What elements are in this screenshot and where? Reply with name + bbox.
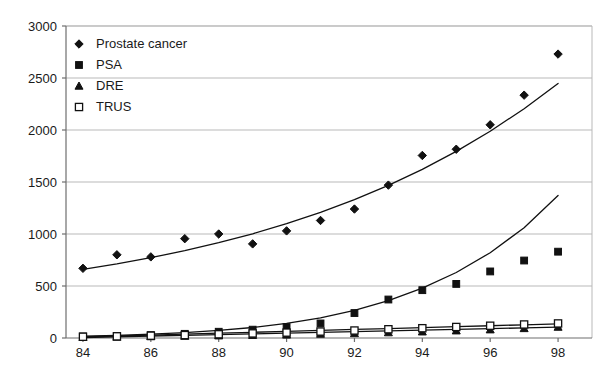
data-point-trus xyxy=(215,331,222,338)
data-point-trus xyxy=(181,331,188,338)
x-tick-label: 86 xyxy=(144,345,158,360)
y-tick-label: 1000 xyxy=(28,227,57,242)
legend-label: Prostate cancer xyxy=(96,36,188,51)
x-tick-label: 90 xyxy=(279,345,293,360)
data-point-trus xyxy=(147,332,154,339)
data-point-trus xyxy=(554,320,561,327)
y-tick-label: 1500 xyxy=(28,175,57,190)
data-point-psa xyxy=(487,268,494,275)
data-point-psa xyxy=(419,287,426,294)
data-point-psa xyxy=(385,296,392,303)
data-point-trus xyxy=(351,327,358,334)
legend-marker-filled-square xyxy=(76,62,83,69)
y-tick-label: 2500 xyxy=(28,71,57,86)
x-tick-label: 84 xyxy=(76,345,90,360)
y-tick-label: 500 xyxy=(35,279,57,294)
data-point-trus xyxy=(113,333,120,340)
legend-label: TRUS xyxy=(96,99,132,114)
data-point-psa xyxy=(521,257,528,264)
data-point-trus xyxy=(385,326,392,333)
chart-container: 050010001500200025003000 848688909294969… xyxy=(0,0,616,377)
data-point-trus xyxy=(453,323,460,330)
legend-label: DRE xyxy=(96,78,124,93)
x-tick-label: 88 xyxy=(211,345,225,360)
data-point-psa xyxy=(317,320,324,327)
legend-marker-open-square xyxy=(75,103,82,110)
data-point-trus xyxy=(521,321,528,328)
data-point-trus xyxy=(283,329,290,336)
data-point-psa xyxy=(555,248,562,255)
data-point-trus xyxy=(487,322,494,329)
scatter-chart: 050010001500200025003000 848688909294969… xyxy=(0,0,616,377)
x-tick-label: 96 xyxy=(483,345,497,360)
legend-label: PSA xyxy=(96,57,122,72)
x-tick-label: 94 xyxy=(415,345,429,360)
data-point-psa xyxy=(453,281,460,288)
y-tick-label: 0 xyxy=(50,331,57,346)
y-tick-label: 3000 xyxy=(28,19,57,34)
x-tick-label: 98 xyxy=(551,345,565,360)
data-point-trus xyxy=(249,330,256,337)
data-point-psa xyxy=(351,310,358,317)
y-tick-label: 2000 xyxy=(28,123,57,138)
data-point-trus xyxy=(79,333,86,340)
data-point-trus xyxy=(419,325,426,332)
x-tick-label: 92 xyxy=(347,345,361,360)
data-point-trus xyxy=(317,328,324,335)
